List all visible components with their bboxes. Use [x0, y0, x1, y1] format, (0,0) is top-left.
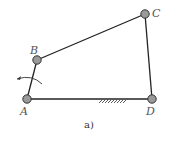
link-rocker-cd: [145, 14, 152, 99]
link-coupler-bc: [37, 14, 145, 60]
joint-b: [33, 56, 41, 64]
joint-d: [148, 95, 156, 103]
label-a: A: [20, 106, 28, 117]
joint-c: [141, 10, 149, 18]
ground-hatch: [99, 100, 126, 103]
four-bar-linkage-figure: A B C D a): [0, 0, 175, 144]
label-b: B: [30, 45, 38, 56]
label-c: C: [152, 8, 160, 19]
figure-caption: a): [84, 120, 94, 130]
rotation-arrow-icon: [17, 76, 42, 84]
label-d: D: [146, 106, 155, 117]
joint-a: [23, 95, 31, 103]
